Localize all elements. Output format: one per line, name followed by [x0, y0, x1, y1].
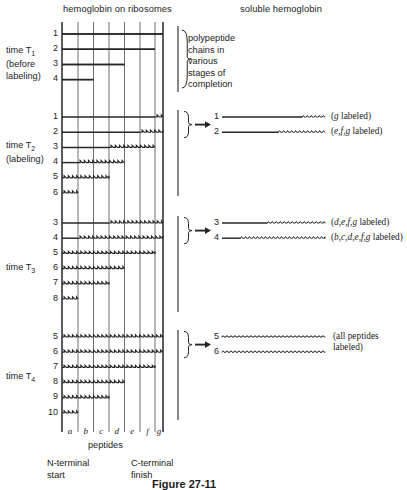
time-label-T3: time T3: [6, 262, 35, 276]
peptide-letter-e: e: [125, 426, 139, 436]
figure-caption: Figure 27-11: [152, 478, 216, 490]
chain-number: 6: [44, 187, 58, 197]
peptide-letter-b: b: [79, 426, 93, 436]
chain-number: 7: [44, 361, 58, 371]
chain-number: 7: [44, 277, 58, 287]
chain-number: 5: [44, 247, 58, 257]
product-label-note: (g labeled): [331, 111, 371, 123]
chain-number: 3: [44, 217, 58, 227]
chain-number: 2: [44, 126, 58, 136]
chain-number: 9: [44, 391, 58, 401]
product-label-note: (b,c,d,e,f,g labeled): [331, 232, 403, 244]
product-label-note: (d,e,f,g labeled): [331, 217, 389, 229]
n-terminal-caption: N-terminalstart: [47, 458, 89, 481]
chain-number: 4: [44, 73, 58, 83]
chain-number: 3: [44, 141, 58, 151]
product-chain-number: 3: [205, 217, 219, 227]
chain-number: 1: [44, 28, 58, 38]
time-label-T2: time T2(labeling): [6, 140, 44, 166]
header-left: hemoglobin on ribosomes: [63, 4, 172, 14]
chain-number: 5: [44, 171, 58, 181]
chain-number: 6: [44, 346, 58, 356]
chain-number: 1: [44, 111, 58, 121]
time-label-T4: time T4: [6, 371, 35, 385]
chain-number: 10: [44, 407, 58, 417]
peptides-axis-label: peptides: [88, 440, 123, 452]
product-chain-number: 1: [205, 111, 219, 121]
header-right: soluble hemoglobin: [240, 4, 322, 14]
peptide-letter-d: d: [110, 426, 124, 436]
chain-number: 4: [44, 232, 58, 242]
chain-number: 3: [44, 58, 58, 68]
chain-number: 4: [44, 156, 58, 166]
peptide-letter-g: g: [152, 426, 166, 436]
chain-number: 8: [44, 376, 58, 386]
time-label-T1: time T1(beforelabeling): [6, 45, 41, 82]
chain-number: 5: [44, 331, 58, 341]
t1-brace-note: polypeptidechains invariousstages ofcomp…: [188, 33, 235, 91]
product-label-note: (all peptideslabeled): [333, 331, 379, 354]
peptide-letter-c: c: [94, 426, 108, 436]
product-chain-number: 6: [205, 346, 219, 356]
chain-number: 2: [44, 43, 58, 53]
chain-number: 6: [44, 262, 58, 272]
chain-number: 8: [44, 293, 58, 303]
product-chain-number: 2: [205, 126, 219, 136]
product-label-note: (e,f,g labeled): [331, 126, 382, 138]
product-chain-number: 5: [205, 331, 219, 341]
product-chain-number: 4: [205, 232, 219, 242]
peptide-letter-a: a: [63, 426, 77, 436]
